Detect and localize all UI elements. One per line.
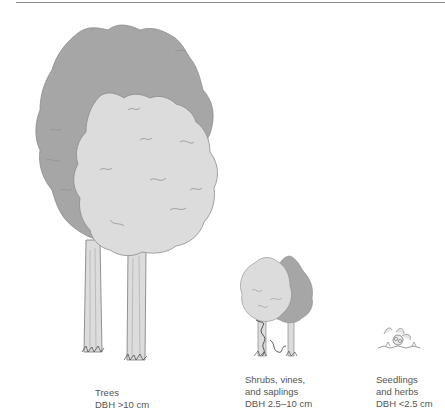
caption-seedlings-line-1: Seedlings — [376, 374, 433, 386]
caption-shrubs-line-2: and saplings — [245, 386, 312, 398]
caption-trees-line-1: Trees — [95, 387, 149, 399]
vegetation-size-class-illustration — [0, 0, 445, 417]
back-tree-trunk — [84, 240, 102, 352]
caption-seedlings-line-3: DBH <2.5 cm — [376, 398, 433, 410]
caption-seedlings-line-2: and herbs — [376, 386, 433, 398]
trees-illustration — [36, 25, 218, 360]
caption-trees-line-2: DBH >10 cm — [95, 399, 149, 411]
caption-trees: Trees DBH >10 cm — [95, 387, 149, 411]
seedlings-illustration — [378, 328, 420, 348]
shrubs-illustration — [240, 256, 312, 356]
light-sapling-canopy — [240, 258, 291, 322]
caption-seedlings: Seedlings and herbs DBH <2.5 cm — [376, 374, 433, 410]
front-tree-trunk — [127, 250, 146, 360]
caption-shrubs-line-3: DBH 2.5–10 cm — [245, 398, 312, 410]
caption-shrubs: Shrubs, vines, and saplings DBH 2.5–10 c… — [245, 374, 312, 410]
caption-shrubs-line-1: Shrubs, vines, — [245, 374, 312, 386]
